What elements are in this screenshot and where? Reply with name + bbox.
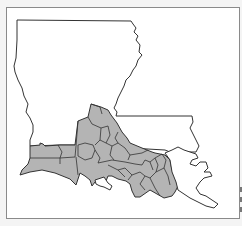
cropped-edge-marks: [240, 187, 242, 219]
louisiana-map: [0, 0, 242, 226]
vermilion-bay: [95, 177, 112, 190]
